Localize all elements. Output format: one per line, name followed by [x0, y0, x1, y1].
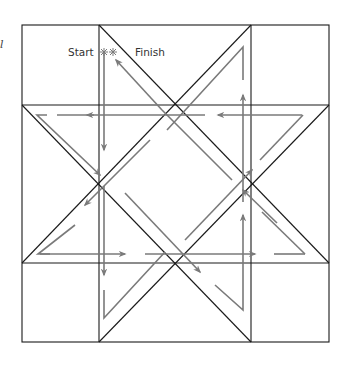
diagonal-1 [99, 25, 329, 263]
path-bottom-right [215, 275, 243, 310]
start-label: Start [68, 46, 94, 58]
path-right-tri-diag [262, 212, 305, 254]
path-left-tri-bottom [38, 225, 75, 254]
path-arrow-up-left-right [243, 190, 277, 223]
path-diag-center [162, 110, 232, 180]
finish-marker [109, 48, 117, 56]
path-arrow-down-left [85, 140, 150, 205]
diagonal-2 [22, 25, 251, 263]
block-outline [22, 25, 329, 342]
sewing-path [37, 47, 305, 318]
outer-square [22, 25, 329, 342]
diagonal-4 [99, 105, 329, 342]
path-arrow-down-right [125, 193, 200, 272]
start-marker [100, 48, 108, 56]
finish-label: Finish [135, 46, 165, 58]
corner-mark: l [0, 38, 4, 51]
path-arrow-up-right [185, 170, 252, 240]
path-bottom-left [104, 252, 165, 318]
star-block-diagram: l [0, 0, 349, 365]
path-top-right [167, 47, 243, 130]
diagonal-3 [22, 105, 251, 342]
path-arrow-to-finish [116, 60, 162, 110]
path-left-tri-diag [37, 115, 100, 175]
